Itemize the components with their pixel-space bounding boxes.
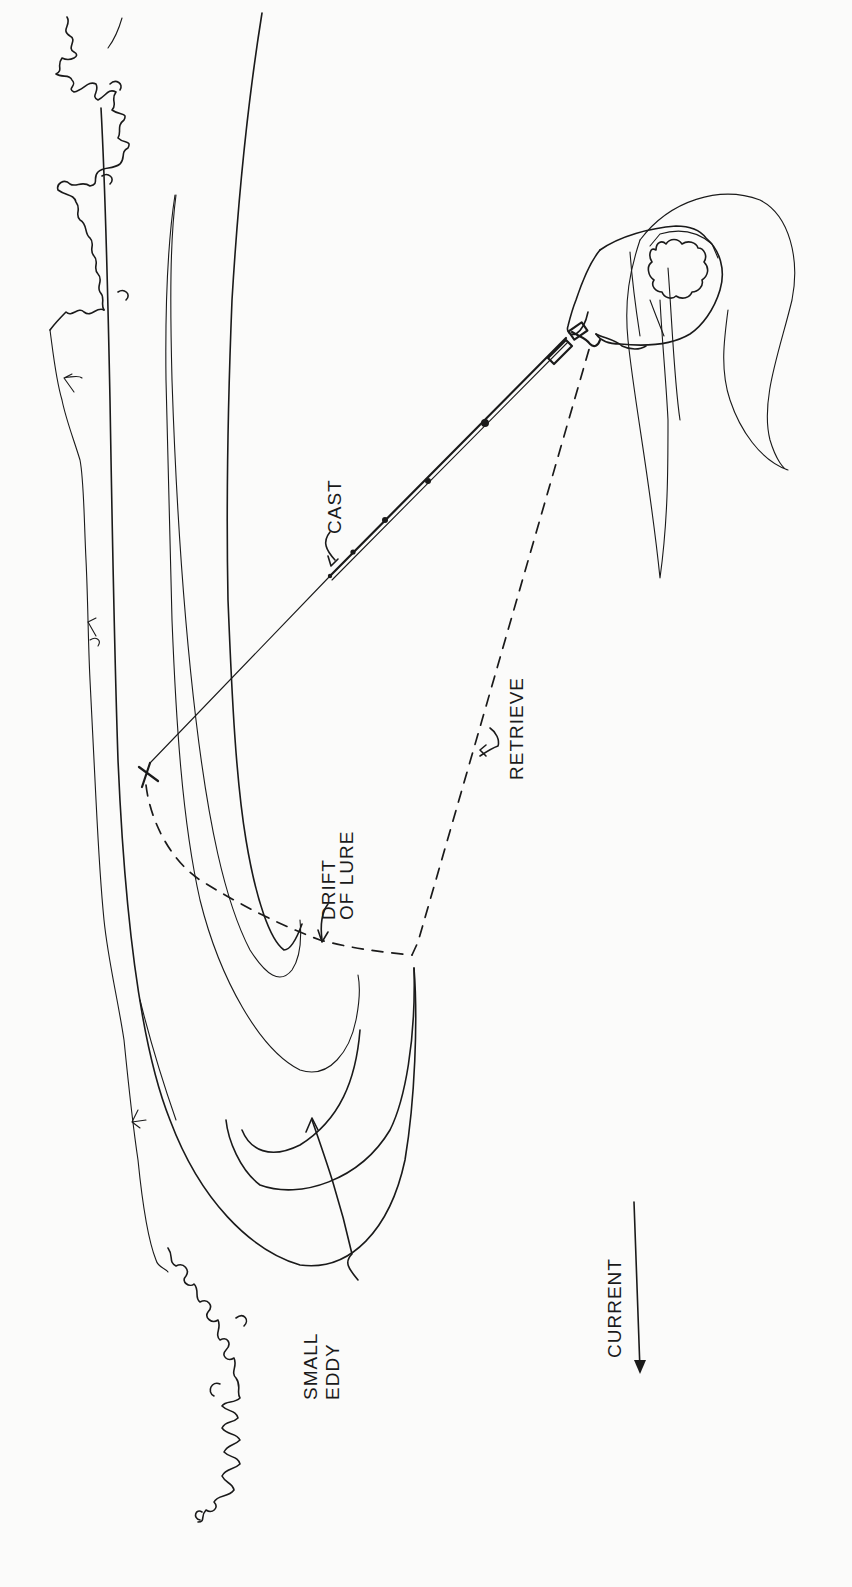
eddy-label-line2: EDDY xyxy=(322,1343,343,1400)
retrieve-path xyxy=(412,346,590,955)
shoreline-vegetation-top xyxy=(50,17,129,330)
retrieve-label: RETRIEVE xyxy=(506,677,527,780)
cast-line xyxy=(150,576,330,763)
rod-guide-icon xyxy=(425,478,431,484)
current-label: CURRENT xyxy=(604,1258,625,1358)
shoreline-edge xyxy=(50,330,168,1272)
rod-guide-icon xyxy=(481,419,489,427)
current-lines xyxy=(101,13,416,1266)
eddy-pointer-arrow xyxy=(306,1118,358,1280)
eddy-label-line1: SMALL xyxy=(300,1333,321,1400)
rod-guide-icon xyxy=(382,517,388,523)
rod-guide-icon xyxy=(350,549,355,554)
drift-label-line2: OF LURE xyxy=(336,831,357,920)
retrieve-pointer-arrow xyxy=(480,728,499,756)
drift-path xyxy=(146,785,412,955)
lure-landing-x-icon xyxy=(139,763,158,787)
fishing-diagram: CAST DRIFT OF LURE RETRIEVE SMALL EDDY C… xyxy=(0,0,852,1587)
cast-pointer-arrow xyxy=(326,532,338,566)
shoreline-vegetation-bottom xyxy=(168,1248,246,1522)
cast-label: CAST xyxy=(324,479,345,534)
angler xyxy=(567,194,794,578)
current-arrow-icon xyxy=(634,1202,646,1374)
diagram-canvas xyxy=(0,0,852,1587)
fishing-rod xyxy=(328,338,572,580)
